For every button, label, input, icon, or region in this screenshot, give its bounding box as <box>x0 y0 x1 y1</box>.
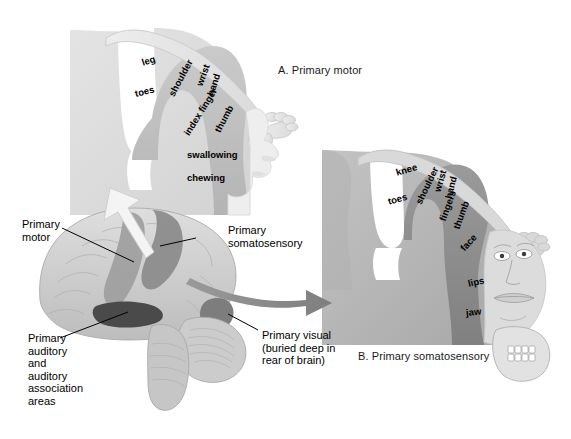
brain-label-primary-somatosensory: Primary somatosensory <box>228 224 303 249</box>
brain-label-primary-motor-line-2: motor <box>22 231 60 244</box>
brain-label-primary-visual-line-2: (buried deep in <box>262 342 335 355</box>
panel-b-caption: B. Primary somatosensory <box>358 350 489 362</box>
brain-label-primary-motor: Primary motor <box>22 218 60 243</box>
panel-a-caption: A. Primary motor <box>278 64 362 76</box>
brain-label-primary-auditory-line-6: areas <box>28 395 83 408</box>
panel-a-label-chewing: chewing <box>187 172 225 183</box>
brain-label-primary-auditory: Primary auditory and auditory associatio… <box>28 332 83 407</box>
brain-label-primary-auditory-line-5: association <box>28 382 83 395</box>
brain-label-primary-visual-line-1: Primary visual <box>262 329 335 342</box>
panel-b-teeth-jaw <box>493 327 550 382</box>
figure-canvas: A. Primary motor B. Primary somatosensor… <box>0 0 571 439</box>
brain-label-primary-somatosensory-line-2: somatosensory <box>228 237 303 250</box>
brain-label-primary-auditory-line-1: Primary <box>28 332 83 345</box>
brain-label-primary-auditory-line-4: auditory <box>28 370 83 383</box>
panel-a-label-swallowing: swallowing <box>187 149 238 160</box>
brain-label-primary-visual-line-3: rear of brain) <box>262 354 335 367</box>
panel-b-label-jaw: jaw <box>465 305 481 318</box>
brain-label-primary-auditory-line-2: auditory <box>28 345 83 358</box>
brain-label-primary-somatosensory-line-1: Primary <box>228 224 303 237</box>
brain-label-primary-auditory-line-3: and <box>28 357 83 370</box>
brain-label-primary-motor-line-1: Primary <box>22 218 60 231</box>
brain-label-primary-visual: Primary visual (buried deep in rear of b… <box>262 329 335 367</box>
